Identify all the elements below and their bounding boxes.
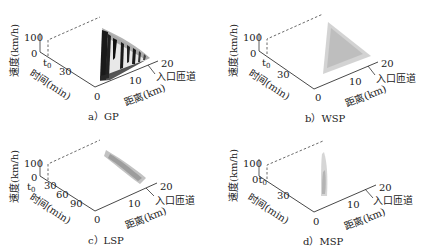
x-tick-10: 10	[347, 200, 360, 210]
panel-caption: c）LSP	[88, 236, 124, 246]
panel-wsp: 100 0 t0 30 0 10 20 入口匝道 速度(km/h) 时间(min…	[213, 0, 426, 126]
panel-caption: d）MSP	[303, 237, 343, 247]
on-ramp-label: 入口匝道	[373, 196, 413, 206]
x-tick-20: 20	[160, 182, 173, 192]
z-tick-100: 100	[243, 33, 262, 43]
x-tick-20: 20	[381, 59, 394, 69]
z-axis-label: 速度(km/h)	[229, 149, 239, 202]
z-tick-100: 100	[243, 159, 262, 169]
panel-lsp: 100 0 t0 30 60 90 0 10 20 入口匝道 速度(km/h) …	[0, 126, 213, 252]
panel-caption: b）WSP	[305, 114, 345, 124]
x-tick-10: 10	[128, 199, 141, 209]
y-tick-30: 30	[44, 181, 57, 191]
panel-msp: 100 0t0 30 0 10 20 入口匝道 速度(km/h) 时间(min)…	[213, 126, 426, 252]
origin-tick-0: 0	[94, 92, 100, 102]
on-ramp-label: 入口匝道	[155, 196, 195, 206]
z-tick-100: 100	[24, 159, 43, 169]
y-tick-60: 60	[56, 190, 69, 200]
y-tick-t0: t0	[262, 58, 271, 70]
y-tick-30: 30	[59, 67, 72, 77]
x-tick-10: 10	[349, 77, 362, 87]
z-axis-label: 速度(km/h)	[10, 150, 20, 203]
z-tick-0: 0t0	[252, 175, 267, 187]
x-tick-20: 20	[379, 183, 392, 193]
wsp-3d-axes	[213, 0, 426, 126]
x-tick-20: 20	[161, 59, 174, 69]
msp-3d-axes	[213, 126, 426, 252]
panel-gp: 100 0 t0 30 0 10 20 入口匝道 速度(km/h) 时间(min…	[0, 0, 213, 126]
z-axis-label: 速度(km/h)	[10, 24, 20, 77]
z-tick-100: 100	[24, 33, 43, 43]
x-tick-10: 10	[129, 76, 142, 86]
y-tick-30: 30	[277, 191, 290, 201]
panel-caption: a）GP	[88, 112, 119, 122]
z-axis-label: 速度(km/h)	[229, 24, 239, 77]
origin-tick-0: 0	[94, 215, 100, 225]
z-tick-0: 0	[31, 49, 37, 59]
y-tick-90: 90	[70, 199, 83, 209]
z-tick-0: 0	[250, 49, 256, 59]
origin-tick-0: 0	[315, 93, 321, 103]
on-ramp-label: 入口匝道	[156, 72, 196, 82]
origin-tick-0: 0	[313, 217, 319, 227]
y-tick-t0: t0	[43, 58, 52, 70]
gp-3d-axes	[0, 0, 213, 126]
y-tick-30: 30	[277, 70, 290, 80]
